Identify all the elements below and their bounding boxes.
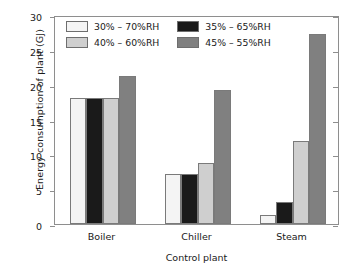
bar-boiler-series-4 — [119, 76, 136, 224]
legend-label-2: 35% – 65%RH — [205, 21, 270, 32]
bar-boiler-series-2 — [86, 98, 103, 224]
legend-entry-3: 40% – 60%RH — [66, 37, 159, 48]
legend-label-4: 45% – 55%RH — [205, 37, 270, 48]
y-tick-mark-right — [333, 52, 338, 53]
y-tick-mark: 5 — [50, 191, 55, 192]
y-tick-mark-right — [333, 156, 338, 157]
y-tick-mark: 20 — [50, 87, 55, 88]
y-tick-mark: 30 — [50, 17, 55, 18]
y-tick-mark-right — [333, 87, 338, 88]
bar-steam-series-1 — [260, 215, 277, 224]
bar-boiler-series-1 — [70, 98, 87, 224]
legend-entry-2: 35% – 65%RH — [177, 21, 270, 32]
legend-swatch-icon-4 — [177, 37, 199, 48]
y-tick-mark: 10 — [50, 156, 55, 157]
legend-label-1: 30% – 70%RH — [94, 21, 159, 32]
legend-swatch-icon-1 — [66, 21, 88, 32]
legend-swatch-icon-2 — [177, 21, 199, 32]
x-category-label-chiller: Chiller — [181, 231, 211, 242]
legend-entry-1: 30% – 70%RH — [66, 21, 159, 32]
bar-chiller-series-4 — [214, 90, 231, 224]
legend-swatch-icon-3 — [66, 37, 88, 48]
y-tick-mark: 15 — [50, 122, 55, 123]
bar-chiller-series-2 — [181, 174, 198, 224]
y-tick-mark-right — [333, 122, 338, 123]
bar-chiller-series-1 — [165, 174, 182, 224]
bar-steam-series-3 — [293, 141, 310, 224]
x-category-label-steam: Steam — [276, 231, 307, 242]
y-tick-label: 30 — [30, 12, 42, 23]
legend-label-3: 40% – 60%RH — [94, 37, 159, 48]
x-axis-title: Control plant — [54, 252, 339, 263]
x-category-label-boiler: Boiler — [88, 231, 115, 242]
y-tick-mark-right — [333, 17, 338, 18]
y-tick-label: 20 — [30, 81, 42, 92]
legend: 30% – 70%RH35% – 65%RH40% – 60%RH45% – 5… — [66, 21, 271, 48]
legend-entry-4: 45% – 55%RH — [177, 37, 270, 48]
y-tick-label: 5 — [36, 186, 42, 197]
bar-steam-series-2 — [276, 202, 293, 224]
y-tick-label: 25 — [30, 46, 42, 57]
bar-chiller-series-3 — [198, 163, 215, 224]
y-tick-mark-right — [333, 191, 338, 192]
y-tick-label: 15 — [30, 116, 42, 127]
y-tick-mark: 0 — [50, 226, 55, 227]
y-tick-label: 0 — [36, 221, 42, 232]
y-tick-mark: 25 — [50, 52, 55, 53]
bar-steam-series-4 — [309, 34, 326, 224]
y-tick-label: 10 — [30, 151, 42, 162]
y-axis-title: Energy consumption of plant (GJ) — [34, 5, 45, 215]
y-tick-mark-right — [333, 226, 338, 227]
bar-chart-figure: Energy consumption of plant (GJ) 0510152… — [0, 0, 363, 276]
bar-boiler-series-3 — [103, 98, 120, 224]
